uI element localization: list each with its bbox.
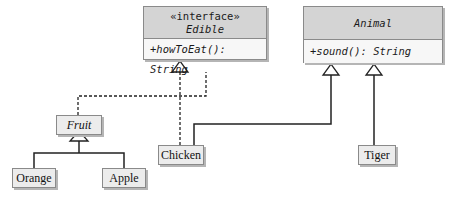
- chicken-class-box[interactable]: Chicken: [158, 145, 204, 165]
- edible-interface-box[interactable]: «interface» Edible +howToEat(): String: [143, 6, 267, 60]
- fruit-class-box[interactable]: Fruit: [56, 115, 102, 135]
- inheritance-arrowhead-chicken: [323, 64, 339, 75]
- edible-header: «interface» Edible: [144, 7, 266, 39]
- tiger-class-box[interactable]: Tiger: [358, 145, 396, 165]
- inheritance-arrowhead-tiger: [366, 64, 382, 75]
- animal-methods: +sound(): String: [304, 40, 442, 63]
- apple-class-box[interactable]: Apple: [102, 168, 146, 188]
- inheritance-chicken-animal: [194, 75, 331, 145]
- inheritance-orange-fruit: [34, 153, 124, 168]
- orange-name: Orange: [16, 171, 51, 185]
- edible-stereotype: «interface»: [144, 10, 266, 23]
- edible-name: Edible: [144, 23, 266, 36]
- animal-header: Animal: [304, 7, 442, 40]
- fruit-name: Fruit: [67, 118, 92, 132]
- tiger-name: Tiger: [364, 148, 390, 162]
- animal-class-box[interactable]: Animal +sound(): String: [303, 6, 443, 63]
- orange-class-box[interactable]: Orange: [12, 168, 56, 188]
- method-sound: +sound(): String: [310, 45, 411, 57]
- edible-methods: +howToEat(): String: [144, 39, 266, 59]
- animal-name: Animal: [354, 17, 392, 29]
- chicken-name: Chicken: [161, 148, 201, 162]
- apple-name: Apple: [109, 171, 138, 185]
